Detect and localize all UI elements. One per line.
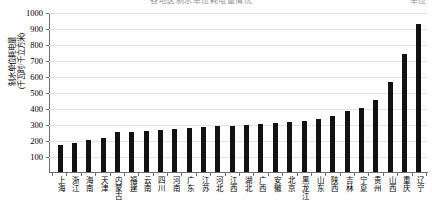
- bar: [302, 121, 307, 172]
- bar-slot: [225, 13, 239, 172]
- bar: [101, 138, 106, 172]
- bar-slot: [326, 13, 340, 172]
- x-axis-label-slot: 广西: [254, 176, 268, 222]
- bar: [388, 82, 393, 172]
- x-axis-label-slot: 福建: [125, 176, 139, 222]
- bar-slot: [340, 13, 354, 172]
- x-axis-label: 浙江: [71, 176, 79, 192]
- bar: [359, 108, 364, 172]
- y-axis-tick-label: 900: [13, 25, 43, 34]
- bar-slot: [168, 13, 182, 172]
- bar-slot: [412, 13, 426, 172]
- x-axis-label: 河南: [171, 176, 179, 192]
- x-axis-label-slot: 天津: [96, 176, 110, 222]
- x-axis-label: 安徽: [272, 176, 280, 192]
- x-axis-label: 海南: [85, 176, 93, 192]
- y-axis-tick-mark: [46, 109, 49, 110]
- y-axis-tick-mark: [46, 61, 49, 62]
- x-axis-label: 黑龙江: [301, 176, 309, 200]
- x-axis-label-slot: 江西: [226, 176, 240, 222]
- bar: [158, 130, 163, 172]
- bar-slot: [283, 13, 297, 172]
- plot-area: [49, 13, 428, 173]
- bar: [144, 131, 149, 172]
- x-axis-label-slot: 贵州: [370, 176, 384, 222]
- bar-slot: [53, 13, 67, 172]
- bar-slot: [153, 13, 167, 172]
- x-axis-label: 陕西: [330, 176, 338, 192]
- bar-series: [50, 13, 428, 172]
- bar-slot: [268, 13, 282, 172]
- x-axis-label: 江苏: [200, 176, 208, 192]
- bar-slot: [369, 13, 383, 172]
- bar-slot: [311, 13, 325, 172]
- x-axis-label: 天津: [99, 176, 107, 192]
- x-axis-label-slot: 湖北: [240, 176, 254, 222]
- bar: [273, 123, 278, 172]
- bar: [416, 24, 421, 172]
- x-axis-label-slot: 宁夏: [355, 176, 369, 222]
- bar: [402, 54, 407, 172]
- bar-slot: [383, 13, 397, 172]
- y-axis-tick-label: 300: [13, 121, 43, 130]
- x-axis-label: 上海: [56, 176, 64, 192]
- bar: [316, 119, 321, 172]
- bar-slot: [397, 13, 411, 172]
- x-axis-label: 广东: [186, 176, 194, 192]
- x-axis-label-slot: 山东: [312, 176, 326, 222]
- x-axis-label: 四川: [157, 176, 165, 192]
- bar: [287, 122, 292, 172]
- x-axis-label-slot: 山西: [384, 176, 398, 222]
- x-axis-label: 江西: [229, 176, 237, 192]
- bar: [201, 127, 206, 172]
- x-axis-label: 云南: [143, 176, 151, 192]
- bar: [330, 116, 335, 172]
- bar-slot: [354, 13, 368, 172]
- x-axis-label: 重庆: [402, 176, 410, 192]
- x-axis-label: 广西: [258, 176, 266, 192]
- x-axis-label: 宁夏: [358, 176, 366, 192]
- bar: [230, 126, 235, 172]
- bar-slot: [96, 13, 110, 172]
- y-axis-tick-label: 100: [13, 153, 43, 162]
- x-axis-label-slot: 陕西: [326, 176, 340, 222]
- y-axis-tick-label: 1000: [13, 9, 43, 18]
- x-axis-label: 山东: [315, 176, 323, 192]
- y-axis-tick-mark: [46, 45, 49, 46]
- bar: [86, 140, 91, 172]
- bar-slot: [139, 13, 153, 172]
- x-axis-label: 湖北: [243, 176, 251, 192]
- x-axis-label: 内蒙古: [114, 176, 122, 200]
- y-axis-tick-mark: [46, 29, 49, 30]
- x-axis-label-slot: 吉林: [341, 176, 355, 222]
- bar: [115, 132, 120, 172]
- bar-chart: 各地区制水单位耗电量情况 单位 制水单位耗电量 (千瓦时/千立方米) 10020…: [0, 0, 432, 222]
- bar-slot: [67, 13, 81, 172]
- x-axis-label-slot: 安徽: [269, 176, 283, 222]
- x-axis-label: 福建: [128, 176, 136, 192]
- bar: [172, 129, 177, 172]
- x-axis-label-slot: 重庆: [398, 176, 412, 222]
- x-axis-label-slot: 黑龙江: [298, 176, 312, 222]
- y-axis-tick-mark: [46, 93, 49, 94]
- bar: [58, 145, 63, 172]
- bar: [187, 128, 192, 172]
- y-axis-tick-mark: [46, 77, 49, 78]
- y-axis-tick-label: 500: [13, 89, 43, 98]
- x-axis-label: 辽宁: [416, 176, 424, 192]
- chart-title-unit: 单位: [410, 0, 426, 5]
- x-axis-label-slot: 内蒙古: [111, 176, 125, 222]
- x-axis-label: 贵州: [373, 176, 381, 192]
- bar-slot: [82, 13, 96, 172]
- bar-slot: [196, 13, 210, 172]
- chart-title-strip: 各地区制水单位耗电量情况 单位: [0, 0, 432, 9]
- bar: [72, 143, 77, 172]
- y-axis-tick-label: 200: [13, 137, 43, 146]
- bar-slot: [239, 13, 253, 172]
- x-axis-label-slot: 北京: [283, 176, 297, 222]
- bar-slot: [110, 13, 124, 172]
- bar: [215, 126, 220, 172]
- bar-slot: [125, 13, 139, 172]
- y-axis-tick-label: 400: [13, 105, 43, 114]
- x-axis-label: 北京: [286, 176, 294, 192]
